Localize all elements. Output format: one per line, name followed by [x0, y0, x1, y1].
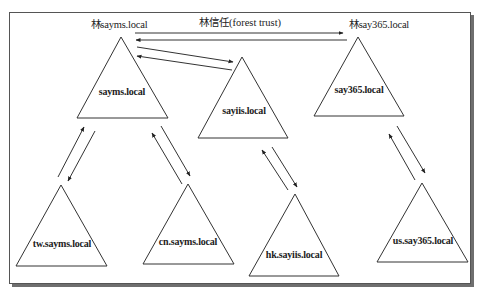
trust-arrow-cn-to-sayms — [152, 133, 182, 184]
cn-child-triangle — [143, 184, 234, 264]
trust-arrow-hk-to-sayiis — [262, 150, 288, 190]
trust-arrow-sayms-to-tw — [68, 131, 95, 181]
domain-label-us: us.say365.local — [393, 235, 453, 247]
forest-label-sayms: 林sayms.local — [91, 19, 148, 31]
us-child-triangle — [377, 183, 468, 262]
trust-diagram — [0, 0, 484, 297]
trust-arrow-sayms-to-sayiis — [137, 47, 233, 62]
domain-label-tw: tw.sayms.local — [33, 238, 91, 250]
trust-arrow-sayiis-to-sayms — [137, 56, 232, 70]
hk-child-triangle — [249, 194, 339, 276]
tw-child-triangle — [16, 185, 107, 266]
trust-arrow-sayiis-to-hk — [272, 147, 297, 187]
forest-trust-label: 林信任(forest trust) — [199, 17, 281, 29]
domain-label-hk: hk.sayiis.local — [266, 249, 322, 261]
trust-arrow-sayms-to-cn — [161, 126, 190, 176]
domain-label-sayms: sayms.local — [99, 86, 145, 98]
say365-root-triangle — [314, 37, 404, 116]
domain-label-sayiis: sayiis.local — [222, 105, 265, 117]
sayms-root-triangle — [77, 37, 168, 118]
sayiis-root-triangle — [198, 57, 288, 138]
trust-arrow-say365-to-us — [397, 126, 425, 173]
trust-arrow-tw-to-sayms — [58, 127, 84, 177]
domain-label-say365: say365.local — [335, 84, 384, 96]
domain-label-cn: cn.sayms.local — [159, 236, 217, 248]
trust-arrow-us-to-say365 — [389, 134, 415, 180]
forest-label-say365: 林say365.local — [349, 19, 409, 31]
